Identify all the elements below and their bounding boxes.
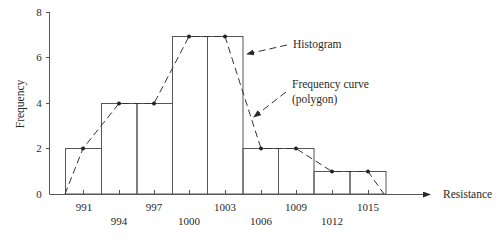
x-tick-997: 997 (146, 201, 163, 213)
bar-991 (66, 149, 102, 195)
annotation-histogram-label: Histogram (293, 38, 342, 51)
bar-1009 (279, 149, 315, 195)
frequency-curve-arrow-icon (254, 92, 286, 117)
annotation-frequency-curve-label: Frequency curve (292, 78, 369, 91)
y-tick-8: 8 (36, 6, 42, 18)
annotation-polygon-label: (polygon) (292, 93, 338, 106)
y-tick-2: 2 (36, 142, 42, 154)
histogram-bars (66, 37, 387, 195)
y-tick-6: 6 (36, 51, 42, 63)
x-tick-1009: 1009 (285, 201, 308, 213)
x-tick-1003: 1003 (214, 201, 237, 213)
y-tick-labels: 8 6 4 2 0 (36, 6, 42, 200)
frequency-polygon (65, 37, 384, 195)
x-tick-994: 994 (111, 215, 128, 227)
y-axis (46, 12, 50, 194)
x-tick-991: 991 (76, 201, 93, 213)
y-tick-4: 4 (36, 97, 42, 109)
histogram-arrow-icon (247, 45, 287, 54)
annotation-histogram: Histogram (247, 38, 342, 54)
x-axis-label: Resistance (443, 188, 492, 200)
y-tick-0: 0 (36, 188, 42, 200)
bar-1003 (208, 37, 244, 195)
bar-997 (137, 104, 173, 195)
annotation-frequency-curve: Frequency curve (polygon) (254, 78, 369, 117)
x-tick-1000: 1000 (178, 215, 201, 227)
x-tick-1006: 1006 (250, 215, 273, 227)
y-axis-label: Frequency (14, 79, 27, 128)
x-tick-labels: 991 994 997 1000 1003 1006 1009 1012 101… (76, 201, 380, 227)
bar-994 (102, 104, 138, 195)
bar-1006 (243, 149, 279, 195)
histogram-chart: 8 6 4 2 0 Frequency 991 994 997 1000 100… (0, 0, 503, 241)
x-tick-1012: 1012 (321, 215, 343, 227)
bar-1000 (173, 37, 208, 195)
x-tick-1015: 1015 (357, 201, 380, 213)
